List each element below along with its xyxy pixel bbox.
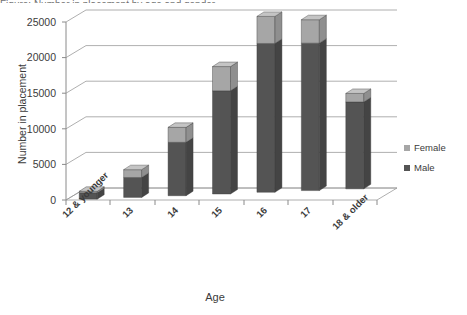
bar-face xyxy=(213,91,231,194)
bar-group xyxy=(79,12,371,199)
chart-canvas xyxy=(0,0,467,315)
y-axis-title: Number in placement xyxy=(16,29,28,199)
legend-label-female: Female xyxy=(414,142,446,153)
legend-label-male: Male xyxy=(414,162,435,173)
bar-face xyxy=(275,12,282,44)
bar-face xyxy=(124,170,142,178)
bar-face xyxy=(319,39,326,191)
bar-face xyxy=(275,39,282,192)
bar-column-1[interactable] xyxy=(124,165,149,197)
bar-face xyxy=(231,62,238,91)
y-tick-label-25000: 25000 xyxy=(8,16,56,28)
bar-face xyxy=(346,102,364,189)
bar-face xyxy=(186,138,193,196)
bar-column-2[interactable] xyxy=(168,123,193,196)
bar-column-4[interactable] xyxy=(257,12,282,192)
bar-face xyxy=(301,20,319,43)
bar-face xyxy=(346,93,364,102)
bar-face xyxy=(301,43,319,190)
x-axis-ticks xyxy=(66,200,377,205)
bar-face xyxy=(124,177,142,197)
axis-depth-lines xyxy=(66,10,86,200)
bar-face xyxy=(168,142,186,195)
bar-face xyxy=(168,127,186,142)
bar-face xyxy=(257,43,275,192)
legend-item-female[interactable]: Female xyxy=(404,142,446,153)
chart-svg xyxy=(0,0,467,315)
bar-column-5[interactable] xyxy=(301,15,326,190)
legend-swatch-female xyxy=(404,145,410,151)
bar-face xyxy=(213,67,231,91)
y-axis-line xyxy=(62,22,66,200)
bar-face xyxy=(319,15,326,43)
bar-face xyxy=(364,97,371,188)
bar-column-6[interactable] xyxy=(346,89,371,189)
bar-face xyxy=(231,86,238,194)
legend-swatch-male xyxy=(404,165,410,171)
x-axis-title: Age xyxy=(0,291,430,303)
bar-face xyxy=(257,16,275,43)
chart-legend: Female Male xyxy=(404,142,446,182)
bar-column-3[interactable] xyxy=(213,62,238,194)
legend-item-male[interactable]: Male xyxy=(404,162,446,173)
